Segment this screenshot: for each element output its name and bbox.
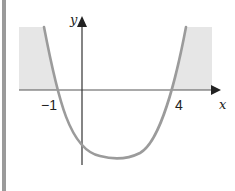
x-tick-label-4: 4 — [175, 97, 183, 113]
shaded-region-left — [19, 27, 58, 90]
y-axis-arrow-icon — [77, 16, 87, 27]
shaded-region-right — [171, 27, 212, 90]
parabola-graph: y x −1 4 — [0, 0, 235, 191]
x-axis-arrow-icon — [211, 85, 221, 95]
y-axis-label: y — [69, 12, 78, 27]
x-tick-label-neg1: −1 — [41, 97, 57, 113]
parabola-curve — [44, 27, 186, 158]
x-axis-label: x — [219, 97, 227, 112]
